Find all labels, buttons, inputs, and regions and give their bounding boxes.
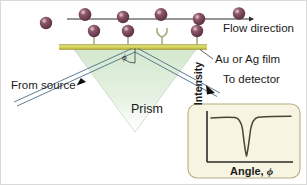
inset-x-axis-label: Angle, ϕ — [230, 166, 273, 177]
inset-x-axis-phi-symbol: ϕ — [267, 165, 273, 177]
analyte-spheres-flowing — [40, 7, 245, 29]
prism-label: Prism — [131, 103, 163, 116]
inset-y-axis-label: Intensity — [193, 62, 205, 114]
analyte-spheres-bound — [88, 25, 203, 37]
surface-receptors — [90, 29, 202, 45]
film-label-leader-line — [200, 50, 213, 60]
receptor-unbound — [157, 29, 167, 45]
flow-direction-label: Flow direction — [223, 23, 294, 35]
metal-film-strip — [59, 45, 207, 50]
angle-phi-label: ϕ — [122, 53, 127, 62]
to-detector-label: To detector — [223, 74, 280, 86]
spr-biosensor-figure: Flow direction Au or Ag film From source… — [0, 0, 307, 185]
from-source-label: From source — [11, 80, 76, 92]
metal-film-label: Au or Ag film — [215, 54, 280, 66]
incident-beam-arrowhead — [77, 78, 87, 87]
inset-x-axis-label-text: Angle, — [230, 165, 267, 177]
